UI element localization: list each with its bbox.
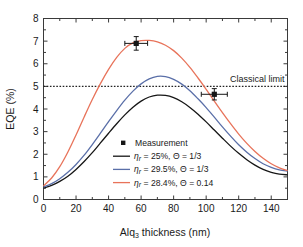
legend-marker-measurement xyxy=(121,141,125,145)
classical-limit-label: Classical limit xyxy=(230,74,285,84)
y-tick-labels: 012345678 xyxy=(33,13,39,205)
x-tick-label: 60 xyxy=(136,203,148,214)
y-tick-label: 2 xyxy=(33,149,39,160)
x-tick-label: 80 xyxy=(168,203,180,214)
y-axis-title: EQE (%) xyxy=(4,88,16,129)
x-tick-label: 0 xyxy=(41,203,47,214)
y-tick-label: 7 xyxy=(33,36,39,47)
x-tick-labels: 020406080100120140 xyxy=(41,203,280,214)
y-tick-label: 4 xyxy=(33,104,39,115)
y-tick-label: 3 xyxy=(33,126,39,137)
chart-legend: Measurementηr = 25%, Θ = 1/3ηr = 29.5%, … xyxy=(113,138,213,188)
x-axis-title: Alq3 thickness (nm) xyxy=(120,226,210,239)
legend-label-2: ηr = 28.4%, Θ = 0.14 xyxy=(134,178,213,189)
x-tick-label: 140 xyxy=(263,203,280,214)
legend-label-measurement: Measurement xyxy=(135,138,188,148)
measurement-points xyxy=(125,37,227,100)
y-tick-label: 0 xyxy=(33,194,39,205)
x-tick-label: 40 xyxy=(103,203,115,214)
measurement-point xyxy=(125,37,148,51)
eqe-vs-thickness-chart: 020406080100120140 012345678 Classical l… xyxy=(0,0,303,247)
x-tick-label: 20 xyxy=(70,203,82,214)
x-tick-label: 100 xyxy=(198,203,215,214)
measurement-point xyxy=(201,89,227,100)
y-tick-label: 6 xyxy=(33,58,39,69)
y-tick-label: 5 xyxy=(33,81,39,92)
chart-figure: 020406080100120140 012345678 Classical l… xyxy=(0,0,303,247)
legend-label-1: ηr = 29.5%, Θ = 1/3 xyxy=(134,164,209,175)
legend-label-0: ηr = 25%, Θ = 1/3 xyxy=(134,151,202,162)
y-tick-label: 1 xyxy=(33,171,39,182)
y-tick-label: 8 xyxy=(33,13,39,24)
x-tick-label: 120 xyxy=(230,203,247,214)
